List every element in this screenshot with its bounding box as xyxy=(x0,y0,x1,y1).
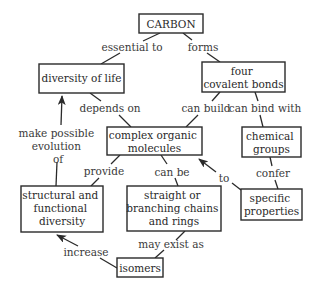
concept-map-carbon: essential to forms depends on can build … xyxy=(0,0,324,305)
node-diversity-of-life: diversity of life xyxy=(39,64,124,93)
edge-label-can-be: can be xyxy=(154,166,189,178)
edge-line-increase-upper xyxy=(57,235,78,246)
node-straight-branching-rings: straight or branching chains and rings xyxy=(126,186,221,231)
node-specific-properties: specific properties xyxy=(241,189,302,220)
edge-label-to: to xyxy=(219,172,230,184)
edge-line-make-possible-upper xyxy=(61,96,62,125)
edge-label-may-exist-as: may exist as xyxy=(138,238,204,250)
edge-label-increase: increase xyxy=(63,246,108,258)
edge-label-make-possible: make possible evolution of xyxy=(19,127,98,165)
edge-line-forms-upper xyxy=(183,33,192,40)
edge-line-to-upper xyxy=(199,159,216,172)
edge-label-can-bind-with: can bind with xyxy=(229,102,302,114)
edge-line-depends-on-lower xyxy=(119,115,131,127)
edge-line-increase-lower xyxy=(100,258,117,268)
edge-label-can-build: can build xyxy=(181,102,230,114)
node-carbon: CARBON xyxy=(139,14,203,33)
edge-line-can-be-lower xyxy=(175,178,178,186)
edge-line-confer-lower xyxy=(275,180,278,189)
edge-line-make-possible-lower xyxy=(56,162,57,186)
node-chemical-groups: chemical groups xyxy=(242,127,301,157)
edge-line-provide-lower xyxy=(91,178,99,186)
node-four-covalent-bonds: four covalent bonds xyxy=(202,62,285,92)
edge-line-may-exist-as-lower xyxy=(155,250,164,258)
edge-label-depends-on: depends on xyxy=(79,102,140,114)
edge-label-provide: provide xyxy=(84,165,124,177)
svg-text:diversity of life: diversity of life xyxy=(42,72,122,84)
edge-line-can-build-upper xyxy=(212,92,220,101)
edge-line-can-bind-with-lower xyxy=(260,115,263,127)
edge-line-essential-to-upper xyxy=(143,33,160,41)
edge-line-essential-to-lower xyxy=(101,53,120,64)
svg-text:chemical groups: chemical groups xyxy=(246,130,297,155)
edge-line-confer-upper xyxy=(270,157,272,166)
node-isomers: isomers xyxy=(117,258,163,277)
edge-line-can-bind-with-upper xyxy=(255,92,258,101)
edge-label-forms: forms xyxy=(188,41,219,53)
edge-line-provide-upper xyxy=(111,155,120,164)
edge-label-confer: confer xyxy=(256,167,291,179)
node-complex-organic-molecules: complex organic molecules xyxy=(107,127,202,155)
edge-line-can-be-upper xyxy=(161,155,167,164)
edge-line-forms-lower xyxy=(207,53,220,62)
svg-text:isomers: isomers xyxy=(119,262,161,274)
edge-line-can-build-lower xyxy=(186,115,198,127)
edge-line-depends-on-upper xyxy=(90,93,101,101)
node-structural-functional-diversity: structural and functional diversity xyxy=(21,186,103,232)
edge-label-essential-to: essential to xyxy=(101,41,162,53)
edge-line-to-lower xyxy=(232,183,241,190)
svg-text:CARBON: CARBON xyxy=(146,18,195,30)
svg-text:specific properties: specific properties xyxy=(244,192,299,217)
